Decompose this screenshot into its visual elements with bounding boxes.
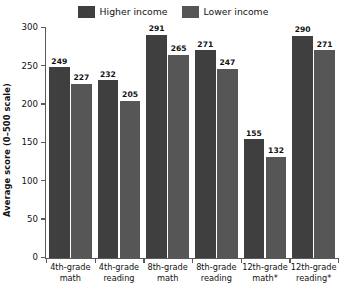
x-axis-category-label: 4th-grademath [46,262,95,283]
x-axis-category-label-line: 4th-grade [95,262,144,273]
y-axis-tick: 50 [41,218,46,219]
x-axis-category-label: 4th-gradereading [95,262,144,283]
bar[interactable]: 271 [195,50,216,258]
x-axis-category-label-line: reading* [289,273,338,284]
y-axis-tick-label: 200 [22,99,38,109]
y-axis-tick-label: 50 [27,214,38,224]
x-axis-tick [338,258,339,263]
y-axis-tick: 100 [41,180,46,181]
bar[interactable]: 291 [146,35,167,258]
y-axis-tick: 300 [41,27,46,28]
bar[interactable]: 132 [266,157,287,258]
bar[interactable]: 265 [168,55,189,258]
y-axis-tick-label: 300 [22,22,38,32]
y-axis-tick-label: 0 [33,252,38,262]
y-axis-line [45,28,46,259]
bar-value-label: 249 [51,57,67,66]
bar-chart: Higher incomeLower income Average score … [0,0,346,300]
bar[interactable]: 205 [120,101,141,258]
x-axis-category-label-line: reading [192,273,241,284]
x-axis-category-label: 8th-gradereading [192,262,241,283]
bar-value-label: 265 [171,44,187,53]
bar[interactable]: 247 [217,69,238,258]
y-axis-title: Average score (0–500 scale) [0,0,14,300]
bar-value-label: 247 [219,58,235,67]
legend-label: Higher income [100,7,168,16]
x-axis-category-label: 12th-grademath* [241,262,290,283]
bar[interactable]: 232 [98,80,119,258]
x-axis-category-label: 12th-gradereading* [289,262,338,283]
x-axis-category-label-line: math [143,273,192,284]
x-axis-category-label-line: 12th-grade [289,262,338,273]
bar-value-label: 232 [100,70,116,79]
x-axis-category-label-line: 4th-grade [46,262,95,273]
bar-value-label: 290 [295,25,311,34]
bar[interactable]: 249 [49,67,70,258]
bar-value-label: 227 [73,73,89,82]
x-axis-category-label-line: reading [95,273,144,284]
x-axis-category-label-line: math* [241,273,290,284]
legend-swatch-lower-income [182,6,199,18]
bar[interactable]: 155 [244,139,265,258]
bar-value-label: 291 [149,24,165,33]
x-axis-category-label-line: 8th-grade [192,262,241,273]
legend-swatch-higher-income [78,6,95,18]
y-axis-title-label: Average score (0–500 scale) [2,83,12,217]
bar-value-label: 132 [268,146,284,155]
bar[interactable]: 290 [292,36,313,258]
x-axis-category-labels: 4th-grademath4th-gradereading8th-gradema… [46,262,338,300]
y-axis-tick-label: 100 [22,176,38,186]
x-axis-category-label-line: 8th-grade [143,262,192,273]
y-axis-tick-label: 250 [22,61,38,71]
bar-value-label: 155 [246,129,262,138]
bar-value-label: 271 [197,40,213,49]
y-axis-tick: 150 [41,142,46,143]
legend-label: Lower income [204,7,269,16]
chart-legend: Higher incomeLower income [0,2,346,22]
y-axis-tick-label: 150 [22,137,38,147]
plot-area: 0501001502002503002492272322052912652712… [46,28,338,258]
x-axis-category-label-line: 12th-grade [241,262,290,273]
bar-value-label: 205 [122,90,138,99]
bar[interactable]: 227 [71,84,92,258]
legend-item-higher-income[interactable]: Higher income [78,6,168,18]
bar-value-label: 271 [317,40,333,49]
legend-item-lower-income[interactable]: Lower income [182,6,269,18]
x-axis-category-label-line: math [46,273,95,284]
bar[interactable]: 271 [314,50,335,258]
y-axis-tick: 200 [41,103,46,104]
y-axis-tick: 250 [41,65,46,66]
x-axis-category-label: 8th-grademath [143,262,192,283]
